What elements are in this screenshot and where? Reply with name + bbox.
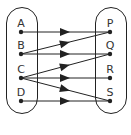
point-dot	[19, 76, 23, 80]
point-dot	[108, 30, 112, 34]
element-label: A	[17, 17, 25, 30]
arrowhead-icon	[59, 38, 71, 48]
arrowhead-icon	[60, 97, 70, 105]
point-dot	[19, 52, 23, 56]
mapping-arrow-c-s	[21, 78, 110, 101]
domain-elements: ABCD	[17, 17, 25, 103]
element-label: R	[106, 63, 114, 76]
element-label: D	[17, 86, 25, 99]
arrowhead-icon	[60, 74, 70, 82]
arrowhead-icon	[60, 50, 70, 58]
point-dot	[108, 76, 112, 80]
element-label: Q	[106, 39, 115, 52]
mapping-arrow-c-q	[21, 54, 110, 78]
point-dot	[108, 52, 112, 56]
arrowhead-icon	[60, 28, 70, 36]
mapping-diagram: ABCD PQRS	[0, 0, 131, 135]
point-dot	[19, 99, 23, 103]
codomain-elements: PQRS	[106, 17, 115, 103]
mapping-arrows	[21, 28, 110, 105]
element-label: C	[17, 63, 25, 76]
point-dot	[108, 99, 112, 103]
arrowhead-icon	[59, 61, 71, 71]
arrowhead-icon	[59, 84, 71, 94]
point-dot	[19, 30, 23, 34]
element-label: B	[17, 39, 25, 52]
mapping-arrow-b-p	[21, 32, 110, 54]
element-label: P	[107, 17, 114, 30]
element-label: S	[107, 86, 114, 99]
mapping-arrow-c-r	[21, 74, 110, 82]
